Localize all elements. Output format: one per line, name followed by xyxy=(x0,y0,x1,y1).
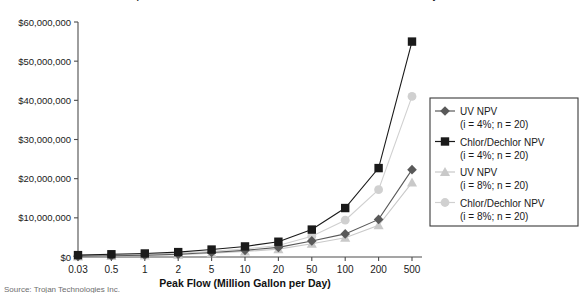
x-axis-title: Peak Flow (Million Gallon per Day) xyxy=(159,277,331,289)
legend-label-sublabel: (i = 4%; n = 20) xyxy=(460,150,528,161)
legend-label-name: Chlor/Dechlor NPV xyxy=(460,137,545,148)
chart-container: Comparison of Net Present Value of UV an… xyxy=(0,0,582,293)
data-point-marker xyxy=(341,216,350,225)
y-axis: $0$10,000,000$20,000,000$30,000,000$40,0… xyxy=(18,17,78,263)
chart-legend[interactable]: UV NPV(i = 4%; n = 20)Chlor/Dechlor NPV(… xyxy=(430,98,578,226)
data-point-marker xyxy=(407,178,417,187)
x-tick-label: 50 xyxy=(306,264,318,275)
x-tick-label: 10 xyxy=(239,264,251,275)
x-tick-label: 0.5 xyxy=(104,264,118,275)
data-point-marker xyxy=(341,204,349,212)
x-tick-label: 500 xyxy=(404,264,421,275)
x-tick-label: 100 xyxy=(337,264,354,275)
legend-label-sublabel: (i = 8%; n = 20) xyxy=(460,211,528,222)
x-axis: 0.030.5125102050100200500 xyxy=(68,257,422,275)
data-point-marker xyxy=(107,250,115,258)
y-tick-label: $60,000,000 xyxy=(18,17,71,28)
data-point-marker xyxy=(340,229,350,239)
y-tick-label: $30,000,000 xyxy=(18,134,71,145)
x-tick-label: 5 xyxy=(209,264,215,275)
y-tick-label: $20,000,000 xyxy=(18,173,71,184)
data-point-marker xyxy=(374,215,384,225)
legend-label-name: UV NPV xyxy=(460,106,498,117)
data-point-marker xyxy=(374,185,383,194)
data-point-marker xyxy=(207,245,215,253)
legend-label-name: UV NPV xyxy=(460,167,498,178)
legend-label-name: Chlor/Dechlor NPV xyxy=(460,198,545,209)
data-point-marker xyxy=(408,37,416,45)
x-tick-label: 0.03 xyxy=(68,264,88,275)
x-tick-label: 1 xyxy=(142,264,148,275)
series-circle xyxy=(74,92,417,260)
data-point-marker xyxy=(374,164,382,172)
legend-label-sublabel: (i = 8%; n = 20) xyxy=(460,180,528,191)
x-tick-label: 2 xyxy=(175,264,181,275)
x-axis-title-group: Peak Flow (Million Gallon per Day) xyxy=(159,277,331,289)
data-point-marker xyxy=(141,249,149,257)
x-tick-label: 200 xyxy=(370,264,387,275)
data-point-marker xyxy=(441,198,450,207)
y-tick-label: $10,000,000 xyxy=(18,212,71,223)
data-point-marker xyxy=(408,92,417,101)
y-tick-label: $50,000,000 xyxy=(18,56,71,67)
data-point-marker xyxy=(74,251,82,259)
data-point-marker xyxy=(441,137,449,145)
data-point-marker xyxy=(174,248,182,256)
data-point-marker xyxy=(274,238,282,246)
data-series-group xyxy=(73,37,417,261)
data-point-marker xyxy=(241,242,249,250)
x-tick-label: 20 xyxy=(273,264,285,275)
source-note: Source: Trojan Technologies Inc. xyxy=(4,285,120,293)
data-point-marker xyxy=(407,165,417,175)
legend-label-sublabel: (i = 4%; n = 20) xyxy=(460,119,528,130)
chart-canvas: $0$10,000,000$20,000,000$30,000,000$40,0… xyxy=(0,0,582,293)
data-point-marker xyxy=(308,225,316,233)
series-square xyxy=(74,37,416,259)
y-tick-label: $0 xyxy=(60,252,71,263)
y-tick-label: $40,000,000 xyxy=(18,95,71,106)
